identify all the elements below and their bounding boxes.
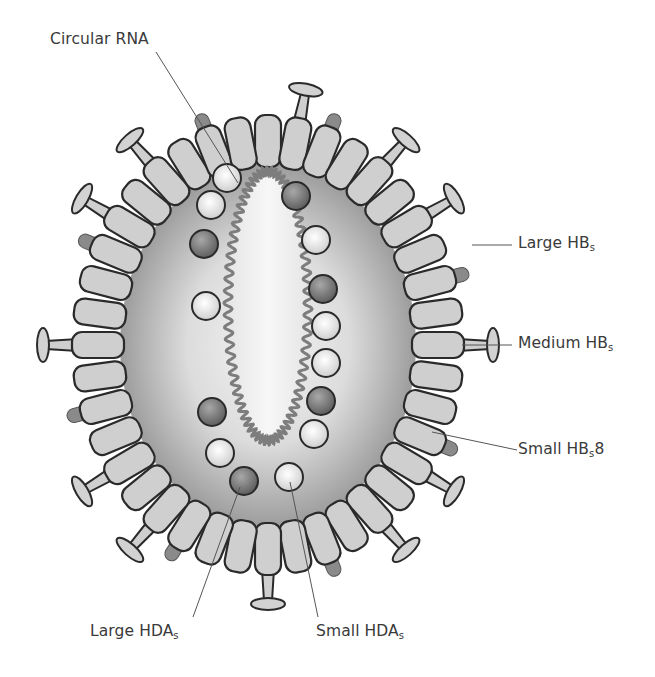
- label-circular-rna: Circular RNA: [50, 30, 149, 48]
- protein-unit: [73, 297, 128, 329]
- small-hdag-particle: [300, 420, 328, 448]
- label-large-hdas: Large HDAs: [90, 622, 179, 641]
- label-text: Small HDA: [316, 622, 399, 640]
- label-text: Large HDA: [90, 622, 173, 640]
- small-hdag-particle: [312, 349, 340, 377]
- label-subscript: s: [399, 630, 404, 641]
- large-hdag-particle: [230, 467, 258, 495]
- large-hdag-particle: [282, 182, 310, 210]
- small-hdag-particle: [302, 226, 330, 254]
- label-subscript: s: [590, 242, 595, 253]
- label-small-hdas: Small HDAs: [316, 622, 404, 641]
- small-hdag-particle: [213, 164, 241, 192]
- protein-unit: [255, 523, 281, 575]
- protein-unit: [409, 360, 464, 392]
- large-hdag-particle: [309, 275, 337, 303]
- label-large-hbs: Large HBs: [518, 234, 595, 253]
- large-hdag-particle: [307, 387, 335, 415]
- label-subscript: s: [608, 342, 613, 353]
- protein-unit: [409, 297, 464, 329]
- label-text: Large HB: [518, 234, 590, 252]
- protein-unit: [72, 332, 124, 358]
- large-hdag-particle: [190, 230, 218, 258]
- label-subscript: s: [173, 630, 178, 641]
- protein-unit: [412, 332, 464, 358]
- large-hdag-particle: [198, 398, 226, 426]
- small-hdag-particle: [197, 191, 225, 219]
- protein-unit: [255, 115, 281, 167]
- label-medium-hbs: Medium HBs: [518, 334, 613, 353]
- label-text: Small HB: [518, 440, 589, 458]
- small-hdag-particle: [206, 439, 234, 467]
- small-hdag-particle: [192, 292, 220, 320]
- label-small-hbs: Small HBs8: [518, 440, 604, 459]
- label-text: Circular RNA: [50, 30, 149, 48]
- protein-unit: [73, 360, 128, 392]
- small-hdag-particle: [275, 463, 303, 491]
- label-text: Medium HB: [518, 334, 608, 352]
- small-hdag-particle: [312, 312, 340, 340]
- label-suffix: 8: [594, 440, 604, 458]
